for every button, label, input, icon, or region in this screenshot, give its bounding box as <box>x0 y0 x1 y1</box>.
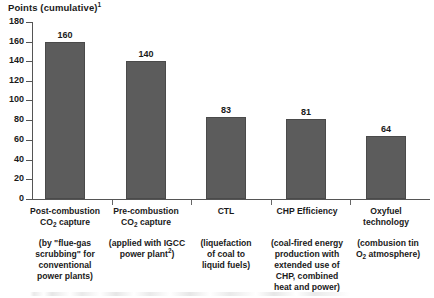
category-description-oxyfuel: (combusion tin O2 atmosphere) <box>344 238 432 260</box>
category-label-pre-combustion: Pre-combustion CO2 capture <box>106 206 186 228</box>
x-divider-tick-2 <box>191 200 192 205</box>
bar-value-post-combustion: 160 <box>45 30 85 40</box>
y-tick-label-0: 0 <box>0 194 24 203</box>
co2-subscript: 2 <box>53 221 57 228</box>
category-label-post-combustion: Post-combustion CO2 capture <box>25 206 105 228</box>
desc-line: (coal-fired energy <box>262 238 352 249</box>
category-description-post-combustion: (by "flue-gas scrubbing" for conventiona… <box>25 238 105 282</box>
y-tick-label-60: 60 <box>0 135 24 144</box>
y-tick-label-120: 120 <box>0 76 24 85</box>
bar-value-pre-combustion: 140 <box>126 49 166 59</box>
category-label-line2: CO2 capture <box>106 217 186 228</box>
o2-prefix: O <box>356 249 363 259</box>
y-tick-label-40-wrap: 40 <box>0 155 24 164</box>
co2-prefix: CO <box>40 217 53 227</box>
desc-line: O2 atmosphere) <box>344 249 432 260</box>
y-tick-label-20-wrap: 20 <box>0 174 24 183</box>
desc-line: extended use of <box>262 260 352 271</box>
category-description-pre-combustion: (applied with IGCC power plant2) <box>104 238 190 260</box>
category-label-line1: Pre-combustion <box>106 206 186 217</box>
co2-prefix: CO <box>121 217 134 227</box>
category-description-ctl: (liquefaction of coal to liquid fuels) <box>186 238 266 271</box>
category-label-line1: Oxyfuel <box>346 206 426 217</box>
plot-area: 180 160 140 120 100 80 60 40 20 0 160 1 <box>0 0 434 210</box>
y-tick-60 <box>26 140 32 141</box>
y-tick-label-140-wrap: 140 <box>0 56 24 65</box>
category-label-line2: technology <box>346 217 426 228</box>
y-tick-label-80: 80 <box>0 115 24 124</box>
y-tick-label-80-wrap: 80 <box>0 115 24 124</box>
x-divider-tick-4 <box>350 200 351 205</box>
y-axis-line <box>32 22 33 200</box>
bar-pre-combustion[interactable] <box>126 61 166 199</box>
y-tick-80 <box>26 120 32 121</box>
y-tick-label-40: 40 <box>0 155 24 164</box>
x-axis-line <box>32 199 430 200</box>
x-divider-tick-3 <box>271 200 272 205</box>
y-tick-label-140: 140 <box>0 56 24 65</box>
category-label-line1: CTL <box>186 206 266 217</box>
co2-suffix: capture <box>138 217 171 227</box>
desc-line: power plant2) <box>104 249 190 260</box>
desc-line: (liquefaction <box>186 238 266 249</box>
desc-line: (applied with IGCC <box>104 238 190 249</box>
bar-chart: Points (cumulative)1 180 160 140 120 100… <box>0 0 434 298</box>
desc-line: liquid fuels) <box>186 260 266 271</box>
y-tick-label-120-wrap: 120 <box>0 76 24 85</box>
o2-suffix: atmosphere) <box>366 249 420 259</box>
bar-value-chp-efficiency: 81 <box>286 107 326 117</box>
bar-ctl[interactable] <box>206 117 246 199</box>
y-tick-label-100: 100 <box>0 95 24 104</box>
category-label-line1: CHP Efficiency <box>263 206 351 217</box>
y-tick-100 <box>26 100 32 101</box>
y-tick-label-0-wrap: 0 <box>0 194 24 203</box>
y-tick-label-180-wrap: 180 <box>0 17 24 26</box>
category-label-ctl: CTL <box>186 206 266 217</box>
y-tick-label-60-wrap: 60 <box>0 135 24 144</box>
desc-line: conventional <box>25 260 105 271</box>
category-label-oxyfuel: Oxyfuel technology <box>346 206 426 228</box>
y-tick-label-160: 160 <box>0 37 24 46</box>
desc-line: scrubbing" for <box>25 249 105 260</box>
y-tick-label-100-wrap: 100 <box>0 95 24 104</box>
y-tick-0 <box>26 199 32 200</box>
y-tick-180 <box>26 22 32 23</box>
co2-suffix: capture <box>57 217 90 227</box>
bar-post-combustion[interactable] <box>45 42 85 199</box>
desc-line: (by "flue-gas <box>25 238 105 249</box>
co2-subscript: 2 <box>134 221 138 228</box>
desc-line: (combusion tin <box>344 238 432 249</box>
y-tick-label-160-wrap: 160 <box>0 37 24 46</box>
desc-line: of coal to <box>186 249 266 260</box>
o2-subscript: 2 <box>363 253 367 260</box>
y-tick-label-20: 20 <box>0 174 24 183</box>
x-divider-tick-1 <box>112 200 113 205</box>
bar-value-ctl: 83 <box>206 105 246 115</box>
category-label-chp-efficiency: CHP Efficiency <box>263 206 351 217</box>
category-label-line2: CO2 capture <box>25 217 105 228</box>
y-tick-20 <box>26 179 32 180</box>
bar-chp-efficiency[interactable] <box>286 119 326 199</box>
y-tick-160 <box>26 42 32 43</box>
desc-text: power plant <box>120 249 168 259</box>
category-label-line1: Post-combustion <box>25 206 105 217</box>
bar-oxyfuel[interactable] <box>366 136 406 199</box>
category-description-chp-efficiency: (coal-fired energy production with exten… <box>262 238 352 293</box>
desc-line: CHP, combined <box>262 271 352 282</box>
desc-line: power plants) <box>25 271 105 282</box>
y-tick-label-180: 180 <box>0 17 24 26</box>
y-tick-40 <box>26 160 32 161</box>
desc-text-close: ) <box>171 249 174 259</box>
desc-line: production with <box>262 249 352 260</box>
y-tick-120 <box>26 81 32 82</box>
y-tick-140 <box>26 61 32 62</box>
bar-value-oxyfuel: 64 <box>366 124 406 134</box>
page-bottom-cutoff-text <box>30 292 360 296</box>
